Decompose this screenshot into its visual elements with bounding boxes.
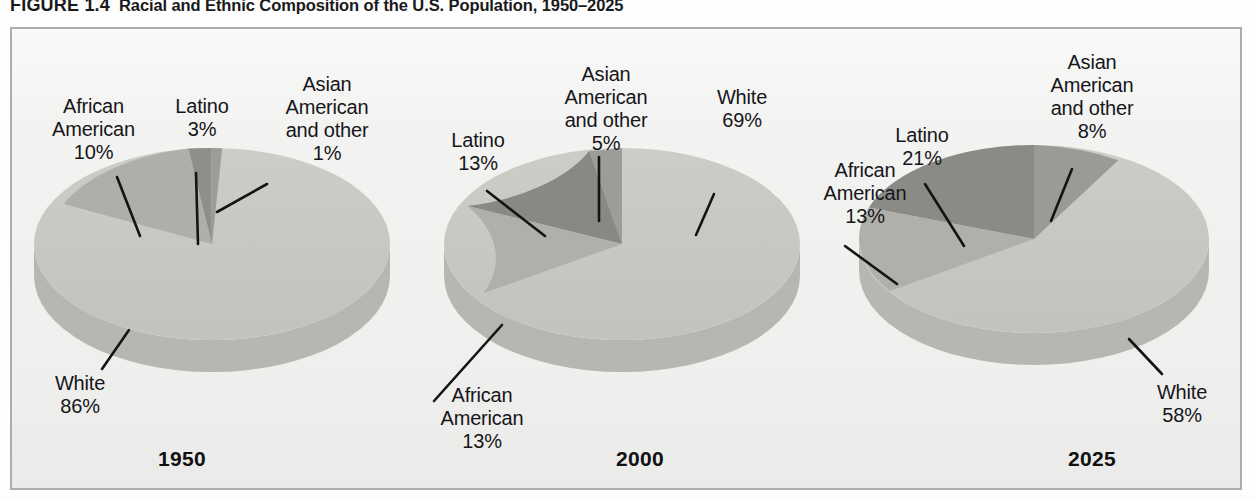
year-label-2000: 2000 bbox=[580, 447, 700, 471]
label-white-2000: White 69% bbox=[682, 86, 802, 132]
label-asian-other-2000: Asian American and other 5% bbox=[530, 63, 682, 155]
leader-african-american bbox=[845, 246, 897, 284]
pie-panel-2000: Latino 13% Asian American and other 5% W… bbox=[412, 29, 832, 490]
figure-frame: African American 10% Latino 3% Asian Ame… bbox=[10, 27, 1242, 490]
pie-panel-2025: Latino 21% Asian American and other 8% A… bbox=[832, 29, 1242, 490]
figure-title: FIGURE 1.4Racial and Ethnic Composition … bbox=[10, 0, 1240, 19]
label-african-american-2025: African American 13% bbox=[790, 159, 940, 228]
label-latino-2000: Latino 13% bbox=[412, 129, 544, 175]
leader-white bbox=[1129, 339, 1162, 374]
year-label-1950: 1950 bbox=[122, 447, 242, 471]
label-latino-1950: Latino 3% bbox=[150, 95, 254, 141]
leader-african-american bbox=[117, 177, 140, 236]
label-african-american-2000: African American 13% bbox=[407, 384, 557, 453]
leader-asian-other bbox=[217, 184, 267, 212]
label-asian-other-2025: Asian American and other 8% bbox=[1014, 51, 1170, 143]
year-label-2025: 2025 bbox=[1032, 447, 1152, 471]
pie-panel-1950: African American 10% Latino 3% Asian Ame… bbox=[12, 29, 412, 490]
figure-container: FIGURE 1.4Racial and Ethnic Composition … bbox=[0, 0, 1256, 501]
label-white-2025: White 58% bbox=[1122, 381, 1242, 427]
leader-latino bbox=[487, 191, 545, 236]
label-asian-other-1950: Asian American and other 1% bbox=[252, 73, 402, 165]
figure-number: FIGURE 1.4 bbox=[10, 0, 110, 15]
leader-asian-other bbox=[1051, 169, 1072, 221]
leader-white bbox=[696, 194, 714, 235]
leader-white bbox=[102, 330, 129, 369]
label-white-1950: White 86% bbox=[20, 372, 140, 418]
leader-latino bbox=[196, 173, 198, 244]
label-african-american-1950: African American 10% bbox=[21, 95, 166, 164]
figure-title-text: Racial and Ethnic Composition of the U.S… bbox=[110, 0, 623, 14]
